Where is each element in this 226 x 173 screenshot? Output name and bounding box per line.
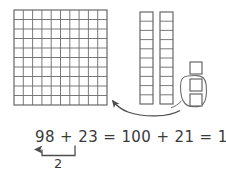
equation: 98 + 23 = 100 + 21 = 121 (35, 128, 226, 146)
unit-cube-2 (190, 79, 202, 91)
ten-rod-1 (140, 12, 153, 104)
regroup-bracket: 2 (42, 146, 75, 172)
regroup-bracket-path (42, 146, 75, 156)
equation-text: 98 + 23 = 100 + 21 = 121 (35, 128, 226, 146)
base-ten-blocks-diagram: 98 + 23 = 100 + 21 = 121 2 (0, 0, 226, 173)
regroup-amount-label: 2 (54, 156, 62, 171)
unit-cube-1 (190, 62, 202, 74)
unit-cube-3 (190, 94, 202, 106)
hundred-square-grid (14, 10, 107, 105)
worksheet-figure: 98 + 23 = 100 + 21 = 121 2 (0, 0, 226, 173)
ten-rod-2 (160, 12, 173, 104)
